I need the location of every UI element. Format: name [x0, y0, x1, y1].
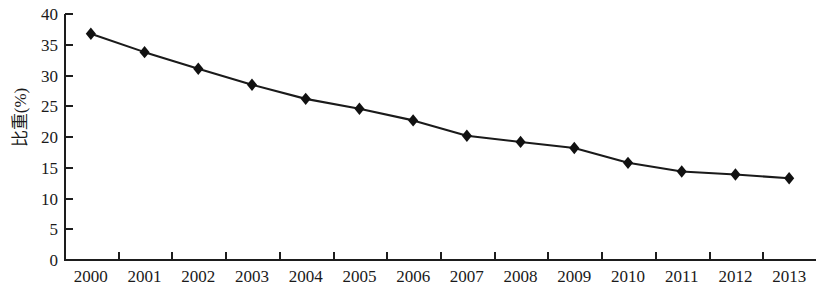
x-axis-tick-label: 2001	[115, 266, 175, 288]
data-point-marker	[623, 157, 633, 169]
y-axis-tick-label: 0	[26, 252, 58, 269]
y-axis-tick-label: 15	[26, 159, 58, 176]
data-point-marker	[784, 172, 794, 184]
data-point-marker	[301, 93, 311, 105]
x-axis-tick-labels: 2000200120022003200420052006200720082009…	[64, 266, 816, 292]
x-axis-tick-label: 2007	[437, 266, 497, 288]
y-axis-tick-label: 10	[26, 190, 58, 207]
x-axis-tick-label: 2010	[598, 266, 658, 288]
data-point-marker	[354, 103, 364, 115]
x-axis-tick-label: 2000	[61, 266, 121, 288]
y-axis-tick-label: 5	[26, 221, 58, 238]
series-line	[91, 34, 789, 179]
x-axis-tick-label: 2013	[759, 266, 818, 288]
x-axis-tick-label: 2006	[383, 266, 443, 288]
y-axis-tick-label: 35	[26, 36, 58, 53]
data-point-marker	[462, 130, 472, 142]
x-axis-tick-label: 2012	[705, 266, 765, 288]
data-point-marker	[569, 142, 579, 154]
series-markers	[86, 27, 794, 184]
x-axis-tick-label: 2002	[168, 266, 228, 288]
x-axis-tick-label: 2004	[276, 266, 336, 288]
data-point-marker	[730, 168, 740, 180]
data-point-marker	[139, 46, 149, 58]
data-point-marker	[408, 114, 418, 126]
plot-area	[64, 14, 816, 260]
x-axis-tick-label: 2003	[222, 266, 282, 288]
data-point-marker	[247, 79, 257, 91]
data-point-marker	[515, 136, 525, 148]
x-axis-tick-label: 2008	[491, 266, 551, 288]
data-point-marker	[193, 63, 203, 75]
y-axis-tick-label: 30	[26, 67, 58, 84]
y-axis-tick-label: 20	[26, 129, 58, 146]
y-axis-tick-label: 25	[26, 98, 58, 115]
y-axis-tick-label: 40	[26, 6, 58, 23]
series-line-group	[64, 14, 816, 260]
x-axis-tick-label: 2011	[652, 266, 712, 288]
data-point-marker	[86, 27, 96, 39]
x-axis-tick-label: 2005	[329, 266, 389, 288]
y-axis-tick-labels: 0510152025303540	[26, 0, 58, 292]
data-point-marker	[677, 165, 687, 177]
line-chart: 比重(%) 0510152025303540 20002001200220032…	[0, 0, 818, 292]
x-axis-tick-label: 2009	[544, 266, 604, 288]
